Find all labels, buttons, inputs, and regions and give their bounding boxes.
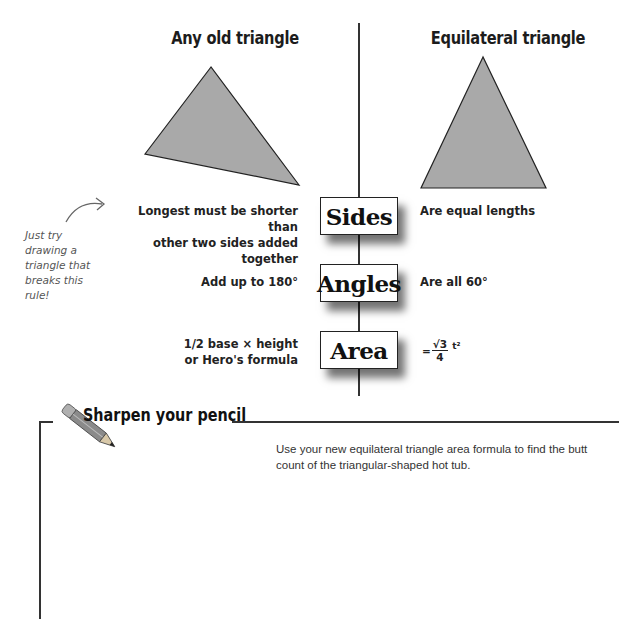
formula-equals: = (422, 343, 431, 359)
curved-arrow-icon (60, 192, 110, 228)
sides-label-box: Sides (320, 197, 398, 235)
area-left-text: 1/2 base × height or Hero's formula (110, 336, 298, 368)
handwritten-annotation: Just try drawing a triangle that breaks … (25, 228, 90, 303)
area-label-box: Area (320, 331, 398, 369)
angles-left-text: Add up to 180° (110, 274, 298, 290)
instruction-line-1: Use your new equilateral triangle area f… (276, 441, 616, 457)
area-left-line-2: or Hero's formula (110, 352, 298, 368)
formula-numerator: √3 (432, 338, 448, 351)
sides-right-text: Are equal lengths (420, 203, 535, 219)
annotation-line-5: rule! (25, 288, 90, 303)
sharpen-rule-line (232, 421, 619, 423)
formula-fraction: √3 4 (432, 338, 448, 363)
area-label: Area (330, 337, 388, 364)
sharpen-title: Sharpen your pencil (83, 404, 246, 425)
area-left-line-1: 1/2 base × height (110, 336, 298, 352)
sides-left-text: Longest must be shorter than other two s… (110, 203, 298, 267)
angles-label: Angles (317, 270, 401, 297)
angles-right-text: Are all 60° (420, 274, 488, 290)
sides-label: Sides (326, 203, 393, 230)
formula-denominator: 4 (436, 351, 443, 363)
annotation-line-4: breaks this (25, 273, 90, 288)
angles-left-line-1: Add up to 180° (110, 274, 298, 290)
sides-left-line-1: Longest must be shorter than (110, 203, 298, 235)
instruction-line-2: count of the triangular-shaped hot tub. (276, 457, 616, 473)
annotation-line-3: triangle that (25, 258, 90, 273)
annotation-line-2: drawing a (25, 243, 90, 258)
sharpen-instructions: Use your new equilateral triangle area f… (276, 441, 616, 473)
area-formula: = √3 4 t² (422, 338, 460, 363)
sides-left-line-2: other two sides added together (110, 235, 298, 267)
sharpen-bracket-top-left (39, 421, 53, 423)
angles-label-box: Angles (320, 264, 398, 302)
sharpen-bracket-left (39, 421, 41, 619)
annotation-line-1: Just try (25, 228, 90, 243)
formula-t-squared: t² (452, 338, 460, 354)
any-old-triangle-shape (0, 0, 619, 200)
